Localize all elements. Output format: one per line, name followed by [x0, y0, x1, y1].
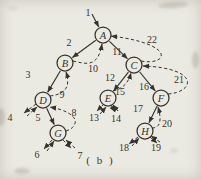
node-label-D: D — [38, 95, 47, 106]
scanned-page: ABCDEFGH12345678910111213141516171819202… — [0, 0, 201, 179]
edge-step-13-down — [97, 104, 104, 111]
edge-step-17 — [149, 106, 157, 123]
step-label-15: 15 — [115, 86, 125, 97]
edge-step-4-down — [24, 104, 36, 113]
node-label-C: C — [130, 60, 138, 71]
node-label-G: G — [54, 128, 62, 139]
node-label-A: A — [99, 30, 107, 41]
step-label-12: 12 — [105, 72, 115, 83]
edge-step-2 — [72, 40, 95, 57]
node-label-B: B — [62, 58, 69, 69]
edge-step-5 — [47, 108, 55, 124]
edge-step-3 — [48, 71, 61, 92]
step-label-22: 22 — [147, 34, 157, 45]
step-label-11: 11 — [112, 46, 122, 57]
step-label-17: 17 — [133, 103, 143, 114]
step-label-3: 3 — [26, 69, 31, 80]
step-label-19: 19 — [151, 142, 161, 153]
step-label-20: 20 — [162, 118, 172, 129]
tree-diagram: ABCDEFGH12345678910111213141516171819202… — [0, 0, 201, 179]
step-label-14: 14 — [111, 113, 121, 124]
step-label-21: 21 — [174, 74, 184, 85]
figure-caption: ( b ) — [0, 154, 201, 166]
step-label-5: 5 — [36, 112, 41, 123]
step-label-13: 13 — [89, 112, 99, 123]
step-label-10: 10 — [88, 63, 98, 74]
step-label-16: 16 — [139, 81, 149, 92]
step-label-8: 8 — [72, 107, 77, 118]
step-label-4: 4 — [8, 112, 13, 123]
step-label-18: 18 — [119, 142, 129, 153]
step-label-1: 1 — [86, 7, 91, 18]
step-label-2: 2 — [67, 37, 72, 48]
edge-step-18-up — [132, 138, 139, 146]
edge-step-1 — [92, 14, 99, 27]
node-label-F: F — [157, 93, 165, 104]
edge-step-13-up — [100, 107, 106, 114]
node-label-E: E — [104, 93, 112, 104]
edge-step-20 — [152, 107, 160, 128]
step-label-9: 9 — [60, 89, 65, 100]
edge-step-6-down — [44, 140, 52, 149]
edge-step-6-up — [47, 141, 54, 151]
node-label-H: H — [140, 126, 150, 137]
